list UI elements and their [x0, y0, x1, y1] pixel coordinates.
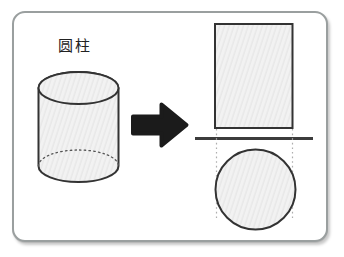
cylinder-figure	[39, 72, 119, 182]
right-arrow-icon	[133, 105, 187, 146]
cylinder-top-face	[39, 72, 119, 104]
side-view-rectangle	[215, 24, 293, 128]
diagram-canvas	[0, 0, 344, 257]
base-view-circle	[216, 150, 296, 230]
screenshot-root: 圆柱	[0, 0, 344, 257]
